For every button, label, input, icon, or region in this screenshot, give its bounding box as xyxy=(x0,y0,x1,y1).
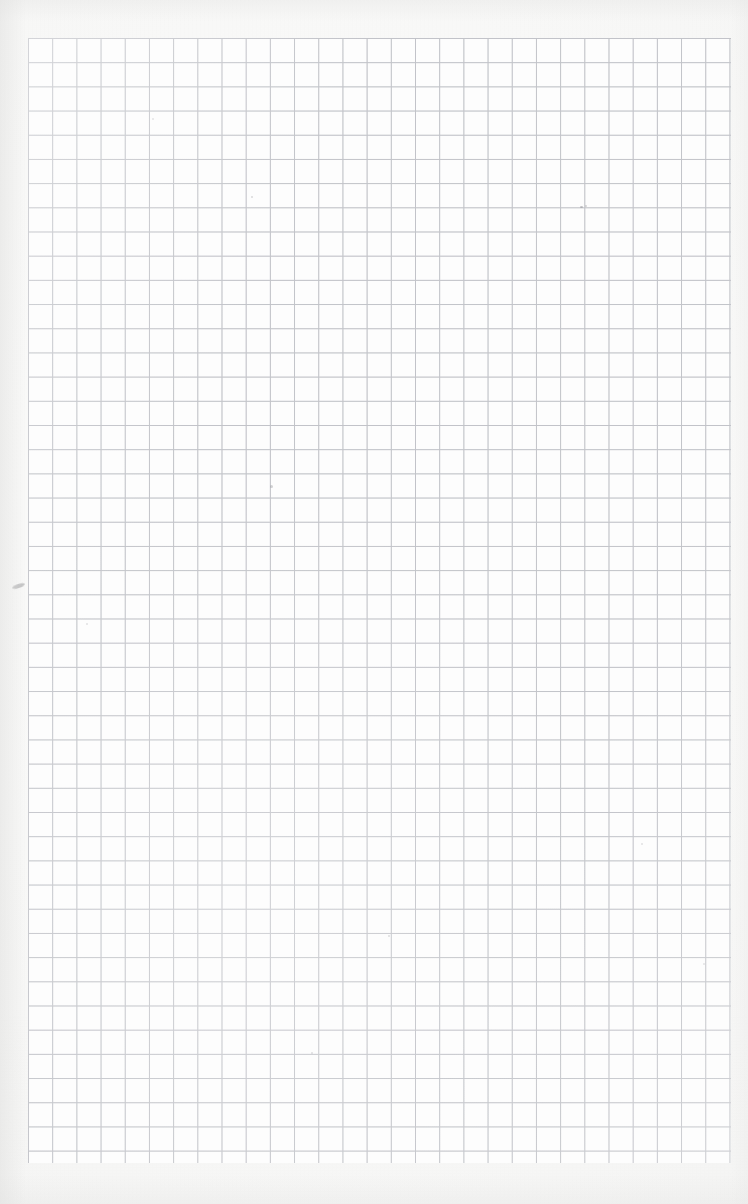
grid-ruling-lines xyxy=(28,38,731,1163)
page-canvas xyxy=(0,0,748,1204)
graph-paper-grid xyxy=(28,38,731,1163)
